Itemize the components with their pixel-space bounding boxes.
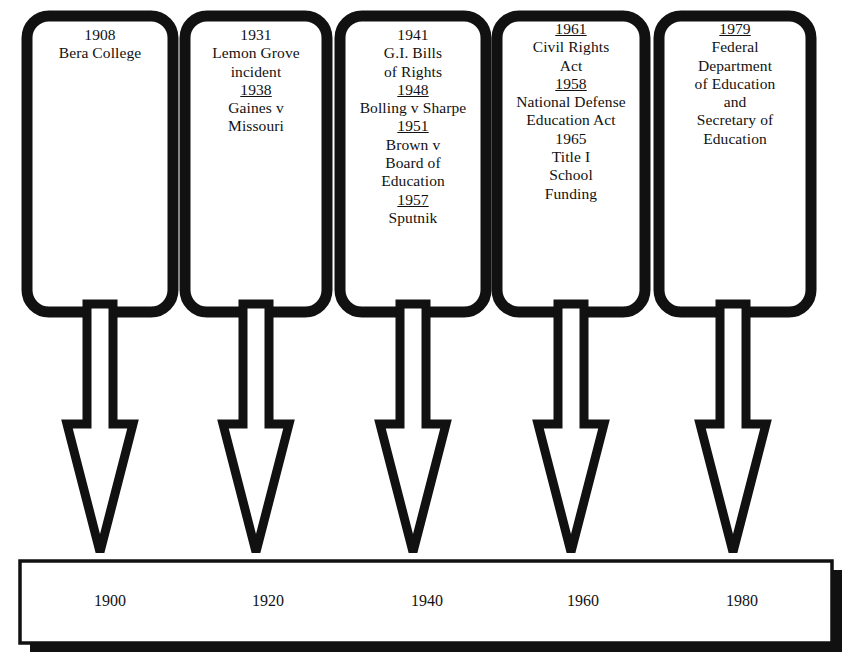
timeline-diagram: 1908 Bera College 1931 Lemon Grove incid… (0, 0, 864, 666)
cut-off-caption (0, 652, 864, 666)
event-year: 1951 (336, 117, 490, 135)
event-label: Secretary of (659, 111, 811, 129)
event-year: 1908 (27, 26, 173, 44)
event-year: 1965 (493, 130, 649, 148)
event-label: Civil Rights (493, 38, 649, 56)
event-label: Education Act (493, 111, 649, 129)
event-box-1-text: 1908 Bera College (27, 26, 173, 63)
event-label: and (659, 93, 811, 111)
event-year: 1957 (336, 191, 490, 209)
event-year: 1948 (336, 81, 490, 99)
down-arrow-2 (223, 304, 289, 552)
down-arrow-3 (380, 304, 446, 552)
event-label: G.I. Bills (336, 44, 490, 62)
event-label: Federal (659, 38, 811, 56)
event-label: Bolling v Sharpe (336, 99, 490, 117)
axis-tick-1960: 1960 (533, 592, 633, 610)
axis-tick-1940: 1940 (377, 592, 477, 610)
event-label: Gaines v (185, 99, 327, 117)
axis-tick-1980: 1980 (692, 592, 792, 610)
event-label: Title I (493, 148, 649, 166)
event-year: 1931 (185, 26, 327, 44)
event-year: 1979 (659, 20, 811, 38)
event-label: Board of (336, 154, 490, 172)
down-arrow-4 (538, 304, 604, 552)
event-label: of Rights (336, 63, 490, 81)
event-year: 1958 (493, 75, 649, 93)
axis-tick-1900: 1900 (60, 592, 160, 610)
event-label: Bera College (27, 44, 173, 62)
event-label: National Defense (493, 93, 649, 111)
event-box-2-text: 1931 Lemon Grove incident 1938 Gaines v … (185, 26, 327, 136)
event-label: of Education (659, 75, 811, 93)
event-label: School (493, 166, 649, 184)
event-year: 1961 (493, 20, 649, 38)
event-label: Act (493, 57, 649, 75)
event-label: Education (659, 130, 811, 148)
event-label: incident (185, 63, 327, 81)
event-label: Missouri (185, 117, 327, 135)
event-label: Lemon Grove (185, 44, 327, 62)
event-label: Sputnik (336, 209, 490, 227)
event-year: 1938 (185, 81, 327, 99)
event-label: Funding (493, 185, 649, 203)
event-year: 1941 (336, 26, 490, 44)
event-label: Education (336, 172, 490, 190)
down-arrow-5 (700, 304, 766, 552)
event-label: Brown v (336, 136, 490, 154)
axis-tick-1920: 1920 (218, 592, 318, 610)
event-box-3-text: 1941 G.I. Bills of Rights 1948 Bolling v… (336, 26, 490, 227)
event-label: Department (659, 57, 811, 75)
event-box-4-text: 1961 Civil Rights Act 1958 National Defe… (493, 20, 649, 203)
event-box-5-text: 1979 Federal Department of Education and… (659, 20, 811, 148)
down-arrow-1 (67, 304, 133, 552)
